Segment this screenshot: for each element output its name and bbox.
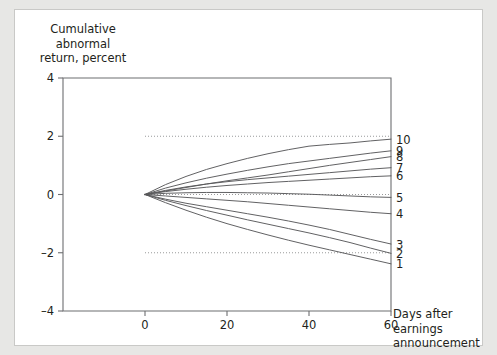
series-line-6: [145, 176, 391, 195]
x-tick-label: 0: [141, 318, 148, 332]
y-tick-label: 2: [47, 129, 54, 143]
y-tick-label: 0: [47, 188, 54, 202]
y-tick-label: –4: [41, 304, 54, 318]
y-tick-label: –2: [41, 246, 54, 260]
figure-panel: Cumulative abnormal return, percent Days…: [14, 9, 483, 346]
x-tick-label: 20: [220, 318, 235, 332]
x-tick-label: 40: [302, 318, 317, 332]
series-line-7: [145, 168, 391, 195]
series-line-8: [145, 157, 391, 195]
series-label-4: 4: [396, 207, 403, 221]
chart-plot-area: 420–2–4020406010987654321: [15, 10, 484, 347]
series-line-3: [145, 195, 391, 245]
series-label-1: 1: [396, 257, 403, 271]
y-tick-label: 4: [47, 71, 54, 85]
series-label-6: 6: [396, 169, 403, 183]
series-label-5: 5: [396, 191, 403, 205]
x-tick-label: 60: [384, 318, 399, 332]
